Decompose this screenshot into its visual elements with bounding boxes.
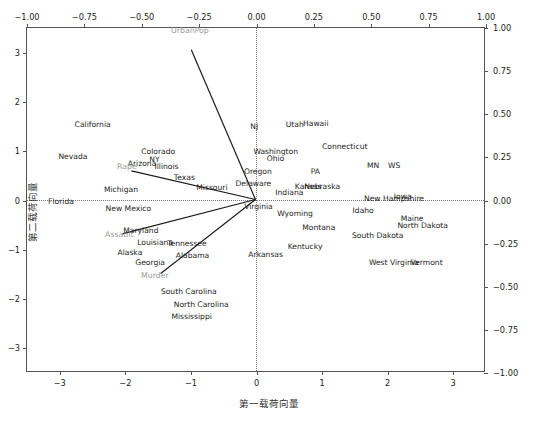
state-label: New Hampshire	[364, 195, 424, 203]
tick-mark-right	[484, 114, 488, 115]
tick-mark-left	[23, 299, 27, 300]
loading-arrow	[161, 200, 256, 274]
state-label: Idaho	[353, 207, 374, 215]
state-label: South Carolina	[161, 289, 217, 297]
loading-label: Murder	[141, 272, 169, 280]
tick-mark-top	[371, 24, 372, 28]
tick-label-left: −3	[8, 343, 20, 353]
tick-label-right: −0.75	[493, 325, 518, 335]
state-label: Texas	[174, 175, 195, 183]
state-label: Nevada	[58, 154, 87, 162]
tick-label-right: 0.50	[493, 109, 511, 119]
tick-mark-top	[429, 24, 430, 28]
tick-label-top: 1.00	[477, 12, 495, 22]
tick-mark-left	[23, 348, 27, 349]
tick-mark-bot	[388, 371, 389, 375]
state-label: Wyoming	[277, 210, 313, 218]
state-label: Kentucky	[288, 244, 323, 252]
tick-label-top: −0.50	[129, 12, 154, 22]
state-label: Mississippi	[171, 314, 211, 322]
tick-label-right: 0.75	[493, 66, 511, 76]
state-label: Tennessee	[167, 240, 207, 248]
state-label: Connecticut	[322, 144, 367, 152]
tick-label-bot: −2	[119, 378, 131, 388]
state-label: Nebraska	[304, 183, 340, 191]
tick-label-left: 0	[15, 196, 20, 206]
state-label: North Carolina	[174, 301, 229, 309]
tick-label-bot: 0	[254, 378, 259, 388]
tick-mark-bot	[257, 371, 258, 375]
tick-mark-top	[314, 24, 315, 28]
tick-label-bot: −1	[185, 378, 197, 388]
state-label: Florida	[48, 199, 74, 207]
state-label: Washington	[253, 149, 298, 157]
state-label: New Mexico	[106, 205, 152, 213]
state-label: Virginia	[244, 204, 273, 212]
tick-mark-right	[484, 330, 488, 331]
tick-mark-top	[84, 24, 85, 28]
tick-label-right: 0.00	[493, 196, 511, 206]
loading-label: UrbanPop	[171, 28, 209, 36]
tick-label-bot: 3	[451, 378, 456, 388]
state-label: Michigan	[104, 186, 138, 194]
state-label: Alaska	[117, 249, 142, 257]
tick-mark-bot	[453, 371, 454, 375]
pca-biplot-figure: −1.00−0.75−0.50−0.250.000.250.500.751.00…	[0, 0, 537, 424]
tick-mark-left	[23, 102, 27, 103]
state-label: NJ	[250, 123, 258, 131]
tick-label-right: −1.00	[493, 368, 518, 378]
state-label: Arkansas	[248, 251, 283, 259]
state-label: MN	[367, 162, 379, 170]
tick-label-top: 0.00	[247, 12, 265, 22]
tick-mark-top	[27, 24, 28, 28]
tick-mark-top	[257, 24, 258, 28]
tick-mark-bot	[60, 371, 61, 375]
state-label: South Dakota	[352, 232, 403, 240]
state-label: PA	[311, 168, 320, 176]
tick-label-top: −0.75	[72, 12, 97, 22]
y-axis-title: 第二载荷向量	[25, 182, 39, 242]
tick-label-left: 3	[15, 48, 20, 58]
tick-mark-bot	[322, 371, 323, 375]
tick-label-right: 0.25	[493, 152, 511, 162]
tick-label-right: −0.50	[493, 282, 518, 292]
state-label: Delaware	[236, 181, 272, 189]
tick-mark-left	[23, 250, 27, 251]
tick-mark-left	[23, 53, 27, 54]
tick-mark-right	[484, 157, 488, 158]
tick-mark-bot	[125, 371, 126, 375]
tick-mark-right	[484, 201, 488, 202]
loading-arrow	[191, 50, 255, 200]
tick-label-right: −0.25	[493, 239, 518, 249]
tick-mark-right	[484, 28, 488, 29]
tick-label-left: 1	[15, 146, 20, 156]
tick-label-top: 0.50	[362, 12, 380, 22]
tick-mark-right	[484, 71, 488, 72]
state-label: North Dakota	[397, 222, 448, 230]
tick-mark-right	[484, 373, 488, 374]
state-label: WS	[388, 162, 400, 170]
tick-label-top: −1.00	[14, 12, 39, 22]
tick-label-bot: −3	[54, 378, 66, 388]
tick-label-left: −2	[8, 294, 20, 304]
state-label: Georgia	[135, 259, 165, 267]
state-label: NY	[149, 156, 159, 164]
tick-label-top: −0.25	[187, 12, 212, 22]
tick-label-left: −1	[8, 245, 20, 255]
tick-label-right: 1.00	[493, 23, 511, 33]
state-label: Alabama	[176, 252, 209, 260]
tick-mark-bot	[191, 371, 192, 375]
tick-mark-right	[484, 244, 488, 245]
state-label: Montana	[302, 224, 335, 232]
tick-label-bot: 2	[385, 378, 390, 388]
tick-label-top: 0.75	[420, 12, 438, 22]
tick-label-top: 0.25	[305, 12, 323, 22]
tick-label-bot: 1	[319, 378, 324, 388]
x-axis-title: 第一载荷向量	[0, 396, 537, 410]
tick-mark-right	[484, 287, 488, 288]
state-label: California	[75, 121, 111, 129]
state-label: Illinois	[154, 163, 178, 171]
state-label: West Virginia	[369, 259, 419, 267]
state-label: Hawaii	[303, 120, 328, 128]
loading-label: Rape	[117, 163, 137, 171]
